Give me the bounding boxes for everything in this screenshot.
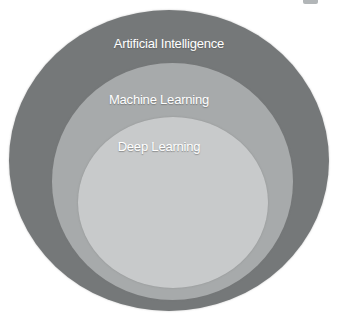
artificial-intelligence-label: Artificial Intelligence (114, 36, 224, 51)
venn-diagram: Artificial Intelligence Machine Learning… (0, 0, 342, 326)
machine-learning-label: Machine Learning (109, 92, 209, 107)
cropped-edge-artifact (303, 0, 318, 4)
deep-learning-label: Deep Learning (118, 139, 201, 154)
